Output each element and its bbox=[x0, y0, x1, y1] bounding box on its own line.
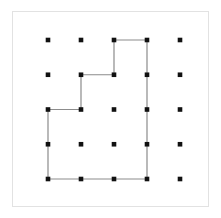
grid-dot bbox=[46, 142, 51, 147]
grid-dot bbox=[145, 177, 150, 182]
grid-dot bbox=[145, 107, 150, 112]
grid-dot bbox=[79, 107, 84, 112]
grid-dot bbox=[79, 177, 84, 182]
grid-dot bbox=[46, 177, 51, 182]
grid-dot bbox=[112, 142, 117, 147]
grid-dot bbox=[145, 38, 150, 43]
grid-dot bbox=[112, 177, 117, 182]
grid-dot bbox=[178, 72, 183, 77]
grid-dot bbox=[46, 38, 51, 43]
grid-dot bbox=[145, 72, 150, 77]
grid-dot bbox=[112, 107, 117, 112]
geoboard-figure bbox=[0, 0, 221, 218]
grid-dot bbox=[46, 72, 51, 77]
grid-dot bbox=[79, 142, 84, 147]
grid-dot bbox=[178, 142, 183, 147]
grid-dot bbox=[79, 72, 84, 77]
grid-dot bbox=[46, 107, 51, 112]
grid-dot bbox=[79, 38, 84, 43]
grid-dot bbox=[112, 38, 117, 43]
polygon-path bbox=[48, 40, 147, 179]
grid-dot bbox=[178, 177, 183, 182]
grid-dot bbox=[145, 142, 150, 147]
grid-dot bbox=[178, 38, 183, 43]
grid-dot bbox=[112, 72, 117, 77]
grid-dot bbox=[178, 107, 183, 112]
screenshot-root bbox=[0, 0, 221, 218]
polygon-outline bbox=[48, 40, 147, 179]
